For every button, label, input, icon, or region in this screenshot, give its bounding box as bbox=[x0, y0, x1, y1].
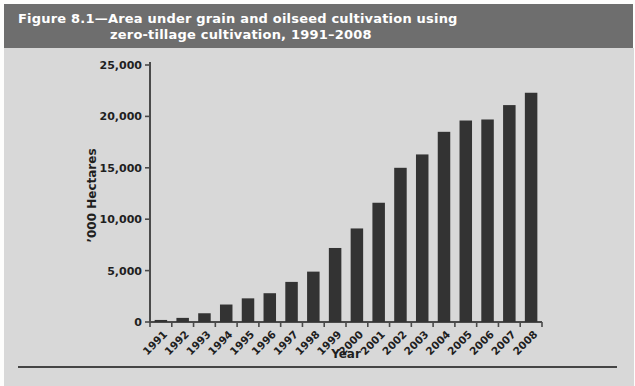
y-tick-label: 5,000 bbox=[107, 265, 142, 278]
figure-title-line2: zero-tillage cultivation, 1991–2008 bbox=[4, 27, 633, 43]
bar-2001 bbox=[372, 203, 385, 322]
bar-2005 bbox=[460, 121, 473, 322]
figure-title-line1: Figure 8.1—Area under grain and oilseed … bbox=[4, 11, 633, 27]
bar-1992 bbox=[176, 318, 189, 322]
bar-2000 bbox=[351, 228, 364, 322]
bar-1999 bbox=[329, 248, 342, 322]
y-tick-label: 20,000 bbox=[100, 110, 143, 123]
x-axis-title: Year bbox=[330, 347, 361, 361]
bar-2008 bbox=[525, 93, 538, 322]
bar-chart: 05,00010,00015,00020,00025,0001991199219… bbox=[0, 48, 635, 386]
bar-1996 bbox=[264, 293, 277, 322]
figure-body: 05,00010,00015,00020,00025,0001991199219… bbox=[4, 48, 634, 386]
y-tick-label: 10,000 bbox=[100, 213, 143, 226]
bar-2002 bbox=[394, 168, 407, 322]
y-tick-label: 0 bbox=[134, 316, 142, 329]
bar-2004 bbox=[438, 132, 451, 322]
bar-1994 bbox=[220, 305, 233, 322]
y-tick-label: 15,000 bbox=[100, 162, 143, 175]
bar-1998 bbox=[307, 272, 320, 322]
y-tick-label: 25,000 bbox=[100, 59, 143, 72]
bar-1993 bbox=[198, 313, 211, 322]
bar-2003 bbox=[416, 154, 429, 322]
x-tick-label-2008: 2008 bbox=[510, 328, 539, 357]
bar-1991 bbox=[155, 320, 168, 322]
bottom-rule bbox=[18, 366, 617, 368]
bar-2007 bbox=[503, 105, 516, 322]
bar-2006 bbox=[481, 119, 494, 322]
bar-1995 bbox=[242, 298, 255, 322]
bar-1997 bbox=[285, 282, 298, 322]
y-axis-title: ’000 Hectares bbox=[85, 148, 99, 242]
figure-title-bar: Figure 8.1—Area under grain and oilseed … bbox=[4, 4, 633, 48]
figure-page: Figure 8.1—Area under grain and oilseed … bbox=[0, 0, 635, 386]
